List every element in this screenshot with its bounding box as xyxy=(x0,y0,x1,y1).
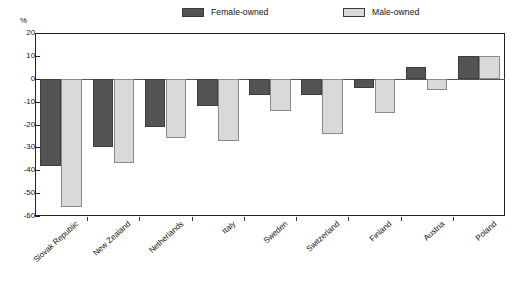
x-axis-separator-tick xyxy=(139,217,140,221)
legend-entry-male-owned: Male-owned xyxy=(343,4,419,20)
x-axis-tick-label-text: Switzerland xyxy=(305,220,341,254)
bar xyxy=(218,79,239,141)
y-axis-tick-mark xyxy=(35,79,40,80)
bar xyxy=(322,79,343,134)
y-axis-tick-mark xyxy=(35,147,40,148)
y-axis-tick-label: -20 xyxy=(5,121,35,129)
bar xyxy=(166,79,187,138)
chart-legend: Female-owned Male-owned xyxy=(0,4,514,22)
bar xyxy=(197,79,218,106)
bar xyxy=(40,79,61,166)
x-axis-tick-label-text: Italy xyxy=(221,220,237,236)
x-axis-tick-label-text: Sweden xyxy=(263,220,290,245)
x-axis: Slovak RepublicNew ZealandNetherlandsIta… xyxy=(0,216,514,281)
y-axis-tick-label: 10 xyxy=(5,52,35,60)
x-axis-tick-label-text: Poland xyxy=(474,220,498,243)
legend-label-male-owned: Male-owned xyxy=(372,8,419,17)
bar xyxy=(270,79,291,111)
y-axis-tick-label: 20 xyxy=(5,29,35,37)
y-axis-tick-label: -30 xyxy=(5,143,35,151)
x-axis-separator-tick xyxy=(244,217,245,221)
x-axis-tick-label-text: New Zealand xyxy=(92,220,132,257)
y-axis-tick-label: -40 xyxy=(5,166,35,174)
bar xyxy=(354,79,375,88)
x-axis-separator-tick xyxy=(87,217,88,221)
x-axis-separator-tick xyxy=(296,217,297,221)
y-axis-tick-label: -10 xyxy=(5,98,35,106)
y-axis-tick-mark xyxy=(35,170,40,171)
y-axis-tick-mark xyxy=(35,102,40,103)
x-axis-separator-tick xyxy=(453,217,454,221)
y-axis-tick-mark xyxy=(35,56,40,57)
bar xyxy=(375,79,396,113)
bar xyxy=(301,79,322,95)
bar xyxy=(145,79,166,127)
bars-layer xyxy=(35,33,505,216)
bar xyxy=(427,79,448,90)
x-axis-tick-label-text: Netherlands xyxy=(147,220,184,255)
y-axis-tick-mark xyxy=(35,125,40,126)
y-axis-tick-label: -50 xyxy=(5,189,35,197)
legend-swatch-female-owned xyxy=(182,8,204,17)
bar xyxy=(114,79,135,164)
bar-chart: Female-owned Male-owned % 20100-10-20-30… xyxy=(0,0,514,281)
x-axis-separator-tick xyxy=(348,217,349,221)
bar xyxy=(406,67,427,78)
legend-entry-female-owned: Female-owned xyxy=(182,4,268,20)
bar xyxy=(458,56,479,79)
bar xyxy=(479,56,500,79)
legend-swatch-male-owned xyxy=(343,8,365,17)
bar xyxy=(93,79,114,148)
y-axis-tick-mark xyxy=(35,216,40,217)
y-axis-tick-label: 0 xyxy=(5,75,35,83)
bar xyxy=(249,79,270,95)
x-axis-tick-label-text: Slovak Republic xyxy=(32,220,80,264)
legend-label-female-owned: Female-owned xyxy=(211,8,268,17)
x-axis-separator-tick xyxy=(192,217,193,221)
bar xyxy=(61,79,82,207)
y-axis-tick-mark xyxy=(35,193,40,194)
y-axis-tick-mark xyxy=(35,33,40,34)
x-axis-tick-label-text: Finland xyxy=(369,220,394,244)
x-axis-separator-tick xyxy=(401,217,402,221)
x-axis-tick-label-text: Austria xyxy=(422,220,446,243)
